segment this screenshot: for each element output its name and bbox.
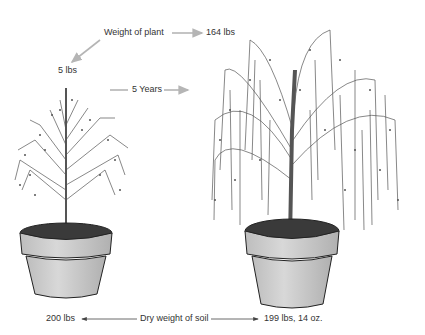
large-tree — [212, 30, 399, 240]
illustration — [0, 0, 425, 335]
duration-label: 5 Years — [132, 84, 162, 94]
small-pot — [20, 223, 112, 298]
weight-of-plant-label: Weight of plant — [104, 27, 164, 37]
final-soil-weight-label: 199 lbs, 14 oz. — [264, 313, 323, 323]
dry-weight-of-soil-label: Dry weight of soil — [140, 313, 209, 323]
initial-soil-weight-label: 200 lbs — [46, 313, 75, 323]
willow-tree-experiment-diagram: Weight of plant 164 lbs 5 lbs 5 Years 20… — [0, 0, 425, 335]
small-tree — [15, 88, 128, 232]
initial-plant-weight-label: 5 lbs — [58, 65, 77, 75]
large-pot — [245, 219, 339, 308]
final-plant-weight-label: 164 lbs — [206, 27, 235, 37]
arrow-weight-to-initial — [72, 40, 100, 62]
